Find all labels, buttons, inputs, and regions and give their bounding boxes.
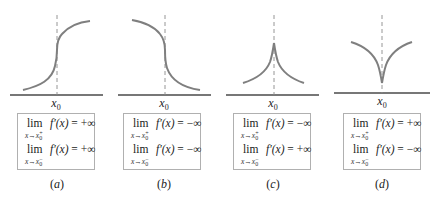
lim-subscript: x→x0−	[241, 155, 259, 168]
lim-word: lim	[243, 117, 258, 129]
caption-a: (a)	[50, 177, 64, 191]
graph-b	[108, 0, 216, 100]
limit-right: lim x→x0+ f′(x) = +∞	[25, 117, 94, 143]
lim-word: lim	[133, 143, 148, 155]
limit-box: lim x→x0+ f′(x) = +∞ lim x→x0− f′(x) = −…	[343, 113, 421, 170]
panel-c: x0 lim x→x0+ f′(x) = −∞ lim x→x0− f′(x) …	[216, 0, 324, 197]
limit-left: lim x→x0− f′(x) = +∞	[25, 143, 94, 169]
lim-subscript: x→x0−	[351, 155, 369, 168]
limit-left: lim x→x0− f′(x) = −∞	[131, 143, 200, 169]
limit-left: lim x→x0− f′(x) = −∞	[351, 143, 420, 169]
x0-label: x0	[159, 97, 168, 114]
limit-box: lim x→x0+ f′(x) = +∞ lim x→x0− f′(x) = +…	[17, 113, 95, 170]
lim-expression: f′(x) = +∞	[376, 117, 421, 129]
lim-subscript: x→x0+	[25, 129, 43, 142]
x0-label: x0	[377, 95, 386, 112]
lim-expression: f′(x) = −∞	[156, 117, 201, 129]
lim-subscript: x→x0−	[131, 155, 149, 168]
caption-b: (b)	[157, 177, 171, 191]
graph-c	[216, 0, 324, 100]
lim-subscript: x→x0+	[241, 129, 259, 142]
graph-a	[0, 0, 108, 100]
lim-word: lim	[133, 117, 148, 129]
lim-word: lim	[353, 117, 368, 129]
lim-expression: f′(x) = −∞	[376, 143, 421, 155]
panel-a: x0 lim x→x0+ f′(x) = +∞ lim x→x0− f′(x) …	[0, 0, 108, 197]
limit-right: lim x→x0+ f′(x) = −∞	[241, 117, 310, 143]
lim-subscript: x→x0−	[25, 155, 43, 168]
lim-word: lim	[27, 117, 42, 129]
lim-subscript: x→x0+	[131, 129, 149, 142]
lim-expression: f′(x) = +∞	[266, 143, 311, 155]
curve-left	[243, 43, 274, 83]
caption-d: (d)	[375, 177, 389, 191]
lim-expression: f′(x) = −∞	[156, 143, 201, 155]
panel-d: x0 lim x→x0+ f′(x) = +∞ lim x→x0− f′(x) …	[324, 0, 432, 197]
limit-right: lim x→x0+ f′(x) = +∞	[351, 117, 420, 143]
limit-right: lim x→x0+ f′(x) = −∞	[131, 117, 200, 143]
limit-box: lim x→x0+ f′(x) = −∞ lim x→x0− f′(x) = +…	[233, 113, 311, 170]
curve-right	[382, 42, 412, 83]
lim-expression: f′(x) = +∞	[50, 143, 95, 155]
graph-d	[324, 0, 432, 100]
lim-word: lim	[27, 143, 42, 155]
x0-label: x0	[268, 97, 277, 114]
curve	[132, 20, 200, 90]
lim-word: lim	[353, 143, 368, 155]
curve	[23, 21, 90, 90]
x0-label: x0	[51, 97, 60, 114]
lim-expression: f′(x) = +∞	[50, 117, 95, 129]
caption-c: (c)	[266, 177, 279, 191]
panel-b: x0 lim x→x0+ f′(x) = −∞ lim x→x0− f′(x) …	[108, 0, 216, 197]
lim-subscript: x→x0+	[351, 129, 369, 142]
lim-word: lim	[243, 143, 258, 155]
limit-box: lim x→x0+ f′(x) = −∞ lim x→x0− f′(x) = −…	[123, 113, 201, 170]
limit-left: lim x→x0− f′(x) = +∞	[241, 143, 310, 169]
curve-right	[274, 43, 304, 83]
curve-left	[351, 42, 382, 83]
lim-expression: f′(x) = −∞	[266, 117, 311, 129]
